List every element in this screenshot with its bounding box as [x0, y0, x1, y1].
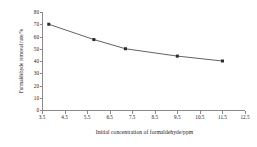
data-point-marker	[92, 38, 95, 41]
x-tick-mark	[87, 111, 88, 114]
x-tick-label: 12.5	[232, 113, 257, 121]
x-tick-mark	[200, 111, 201, 114]
x-axis-line	[42, 110, 245, 111]
chart-container: Formaldehyde removal rate/% 010203040506…	[0, 0, 257, 147]
x-tick-mark	[177, 111, 178, 114]
y-tick-label: 60	[18, 33, 39, 41]
series-line-formaldehyde-removal-rate	[49, 24, 223, 61]
x-tick-mark	[65, 111, 66, 114]
y-tick-label: 20	[18, 82, 39, 90]
y-tick-label: 70	[18, 20, 39, 28]
x-tick-mark	[245, 111, 246, 114]
data-point-marker	[176, 55, 179, 58]
x-axis-title: Initial concentration of formaldehyde/pp…	[42, 129, 247, 135]
data-point-marker	[221, 60, 224, 63]
y-tick-label: 10	[18, 94, 39, 102]
x-tick-mark	[132, 111, 133, 114]
data-point-marker	[124, 47, 127, 50]
y-tick-label: 30	[18, 69, 39, 77]
x-tick-mark	[222, 111, 223, 114]
data-series-layer	[42, 12, 245, 110]
x-tick-mark	[110, 111, 111, 114]
y-tick-label: 80	[18, 8, 39, 16]
plot-area: 01020304050607080 3.54.55.56.57.58.59.51…	[42, 12, 245, 110]
x-tick-mark	[155, 111, 156, 114]
y-tick-label: 50	[18, 45, 39, 53]
x-tick-mark	[42, 111, 43, 114]
y-tick-label: 40	[18, 57, 39, 65]
data-point-marker	[47, 23, 50, 26]
series-markers	[47, 23, 224, 63]
